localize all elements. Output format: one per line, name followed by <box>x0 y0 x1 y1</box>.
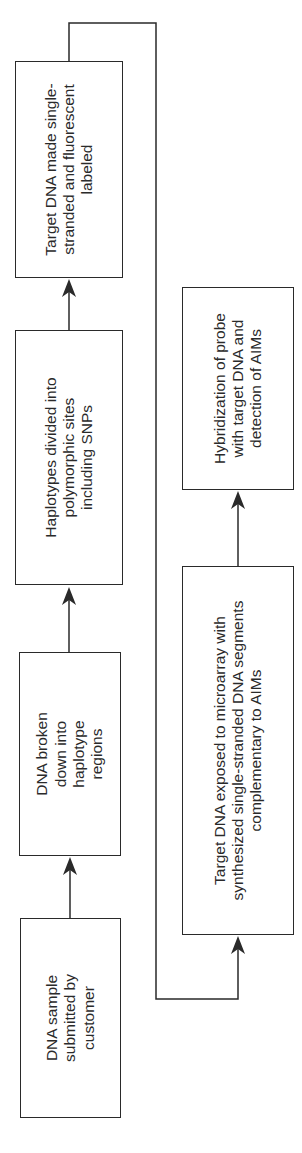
step-text-6: Hybridization of probe with target DNA a… <box>211 306 266 471</box>
step-text-4: Target DNA made single-stranded and fluo… <box>42 70 97 270</box>
step-label-5: Target DNA exposed to microarray with sy… <box>182 566 294 935</box>
step-text-1: DNA sample submitted by customer <box>43 963 98 1073</box>
step-label-4: Target DNA made single-stranded and fluo… <box>15 61 123 278</box>
step-label-2: DNA broken down into haplotype regions <box>19 652 121 856</box>
step-text-3: Haplotypes divided into polymorphic site… <box>42 368 97 548</box>
step-label-1: DNA sample submitted by customer <box>20 918 121 1118</box>
step-text-2: DNA broken down into haplotype regions <box>33 694 106 814</box>
step-label-6: Hybridization of probe with target DNA a… <box>182 287 294 490</box>
step-label-3: Haplotypes divided into polymorphic site… <box>15 330 123 585</box>
step-text-5: Target DNA exposed to microarray with sy… <box>211 581 266 921</box>
